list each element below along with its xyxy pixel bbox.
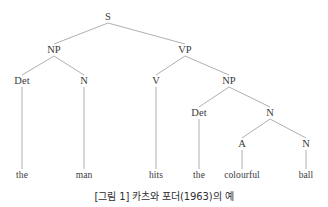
tree-edge bbox=[185, 56, 229, 75]
tree-leaf-w_hits: hits bbox=[149, 171, 163, 181]
syntax-tree-edges bbox=[0, 0, 328, 207]
tree-edge bbox=[199, 87, 229, 107]
tree-node-vp: VP bbox=[178, 45, 192, 56]
tree-edge bbox=[242, 119, 270, 138]
tree-leaf-w_ball: ball bbox=[299, 171, 314, 181]
tree-node-n1: N bbox=[80, 76, 88, 87]
tree-node-a: A bbox=[238, 139, 246, 150]
tree-edge bbox=[108, 23, 185, 44]
tree-node-n2: N bbox=[266, 108, 274, 119]
tree-node-det1: Det bbox=[14, 76, 29, 87]
tree-leaf-w_col: colourful bbox=[224, 171, 260, 181]
tree-leaf-w_the1: the bbox=[16, 171, 28, 181]
tree-edge bbox=[22, 56, 54, 75]
tree-edge bbox=[229, 87, 270, 107]
tree-node-n3: N bbox=[302, 139, 310, 150]
tree-edge bbox=[54, 56, 84, 75]
tree-node-np2: NP bbox=[222, 76, 236, 87]
tree-node-np1: NP bbox=[47, 45, 61, 56]
figure-caption: [그림 1] 카츠와 포더(1963)의 예 bbox=[0, 188, 328, 203]
tree-node-s: S bbox=[105, 12, 111, 23]
tree-edge bbox=[270, 119, 306, 138]
tree-edge bbox=[54, 23, 108, 44]
tree-node-v: V bbox=[152, 76, 160, 87]
tree-edge bbox=[156, 56, 185, 75]
figure-container: SNPVPDetNVNPDetNANthemanhitsthecolourful… bbox=[0, 0, 328, 207]
tree-node-det2: Det bbox=[191, 108, 206, 119]
tree-leaf-w_the2: the bbox=[193, 171, 205, 181]
tree-leaf-w_man: man bbox=[76, 171, 93, 181]
